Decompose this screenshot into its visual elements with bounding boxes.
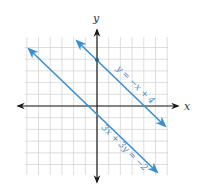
x-axis-label: x xyxy=(184,100,191,113)
y-axis-label: y xyxy=(92,12,100,25)
line-y-equals-neg-x-plus-4 xyxy=(77,41,165,126)
y-intercept-point xyxy=(95,58,99,62)
equation-label-2: 3x + 3y = −2 xyxy=(100,122,151,173)
coordinate-graph: x y y = −x + 4 3x + 3y = −2 xyxy=(0,0,206,193)
